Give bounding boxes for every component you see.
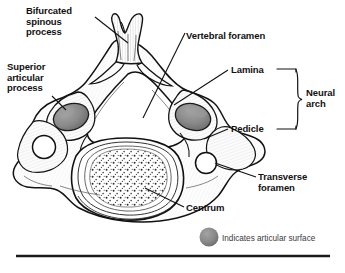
legend-articular-surface-label: Indicates articular surface [222,234,315,243]
legend-swatch-layer [0,0,345,273]
vertebra-figure: Bifurcated spinous process Superior arti… [0,0,345,273]
legend-articular-surface-swatch [200,228,219,247]
